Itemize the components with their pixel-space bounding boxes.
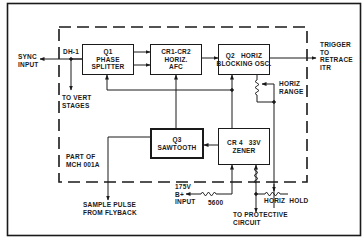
b-plus-input-label: 175V B+ INPUT xyxy=(175,183,196,206)
cr1-cr2-afc-block: CR1-CR2 HORIZ. AFC xyxy=(150,44,202,75)
part-of-mch-label: PART OF MCH 001A xyxy=(66,153,100,168)
resistor-5600-label: 5600 xyxy=(208,199,223,207)
sample-pulse-label: SAMPLE PULSE FROM FLYBACK xyxy=(83,201,137,216)
dh1-label: DH-1 xyxy=(63,48,79,56)
sync-input-label: SYNC INPUT xyxy=(18,53,39,68)
q2-label: Q2 HORIZ BLOCKING OSC. xyxy=(217,52,272,67)
q3-label: Q3 SAWTOOTH xyxy=(157,136,196,151)
q1-phase-splitter-block: Q1 PHASE SPLITTER xyxy=(82,44,134,75)
to-vert-stages-label: TO VERT STAGES xyxy=(62,94,91,109)
q1-label: Q1 PHASE SPLITTER xyxy=(91,48,124,71)
to-protective-circuit-label: TO PROTECTIVE CIRCUIT xyxy=(233,211,288,226)
horiz-range-label: HORIZ RANGE xyxy=(279,80,303,95)
q3-sawtooth-block: Q3 SAWTOOTH xyxy=(150,128,204,159)
cr4-zener-block: CR 4 33V ZENER xyxy=(218,128,270,165)
cr4-label: CR 4 33V ZENER xyxy=(227,139,261,154)
cr1-cr2-label: CR1-CR2 HORIZ. AFC xyxy=(161,48,191,71)
q2-blocking-osc-block: Q2 HORIZ BLOCKING OSC. xyxy=(218,44,270,75)
horiz-hold-label: HORIZ HOLD xyxy=(264,197,308,205)
trigger-retrace-label: TRIGGER TO RETRACE ITR xyxy=(320,41,353,71)
